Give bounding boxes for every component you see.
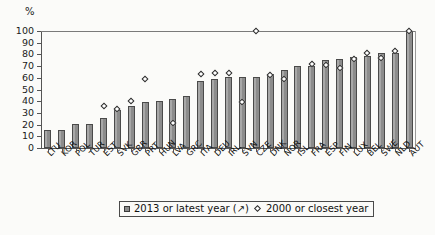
x-tick-mark	[62, 148, 63, 152]
y-tick-label: 20	[8, 120, 34, 130]
y-axis-ticks: 0102030405060708090100	[0, 0, 41, 148]
x-tick-mark	[48, 148, 49, 152]
x-tick-mark	[354, 148, 355, 152]
chart-legend: 2013 or latest year (↗) 2000 or closest …	[119, 201, 374, 217]
diamond-marker	[197, 71, 204, 78]
x-tick-mark	[159, 148, 160, 152]
bar	[322, 60, 329, 148]
y-tick-label: 0	[8, 143, 34, 153]
x-tick-mark	[187, 148, 188, 152]
diamond-marker	[253, 27, 260, 34]
legend-series1-label: 2013 or latest year (↗)	[134, 203, 249, 214]
x-tick-mark	[145, 148, 146, 152]
x-tick-mark	[409, 148, 410, 152]
bar	[308, 66, 315, 148]
bar	[267, 74, 274, 148]
diamond-marker	[211, 70, 218, 77]
x-tick-mark	[173, 148, 174, 152]
x-tick-mark	[201, 148, 202, 152]
x-tick-mark	[242, 148, 243, 152]
x-tick-mark	[117, 148, 118, 152]
y-tick-label: 30	[8, 108, 34, 118]
x-tick-mark	[326, 148, 327, 152]
diamond-marker	[142, 75, 149, 82]
legend-bar-swatch-icon	[124, 206, 130, 212]
x-tick-mark	[381, 148, 382, 152]
bar	[253, 77, 260, 148]
y-tick-label: 100	[8, 26, 34, 36]
y-tick-label: 50	[8, 85, 34, 95]
bar	[392, 53, 399, 148]
bar	[378, 53, 385, 148]
plot-area	[41, 31, 416, 148]
x-tick-mark	[298, 148, 299, 152]
y-tick-label: 80	[8, 50, 34, 60]
diamond-marker	[225, 69, 232, 76]
bar	[211, 79, 218, 148]
bar	[406, 31, 413, 148]
y-tick-label: 90	[8, 38, 34, 48]
bar	[156, 101, 163, 148]
x-tick-mark	[312, 148, 313, 152]
x-tick-mark	[104, 148, 105, 152]
y-tick-label: 10	[8, 132, 34, 142]
bar	[197, 81, 204, 148]
bar	[364, 56, 371, 148]
y-tick-label: 70	[8, 61, 34, 71]
y-tick-label: 60	[8, 73, 34, 83]
bar	[183, 96, 190, 148]
x-tick-mark	[229, 148, 230, 152]
x-tick-mark	[76, 148, 77, 152]
x-tick-mark	[256, 148, 257, 152]
x-tick-mark	[367, 148, 368, 152]
x-tick-mark	[340, 148, 341, 152]
x-tick-mark	[90, 148, 91, 152]
x-tick-mark	[284, 148, 285, 152]
diamond-marker	[100, 103, 107, 110]
bar	[294, 66, 301, 148]
x-tick-mark	[215, 148, 216, 152]
x-tick-mark	[131, 148, 132, 152]
chart-container: % 0102030405060708090100 LTUKORPOLTUREST…	[0, 0, 435, 235]
bar	[350, 57, 357, 148]
x-tick-mark	[395, 148, 396, 152]
bar	[225, 77, 232, 148]
x-tick-mark	[270, 148, 271, 152]
legend-diamond-swatch-icon	[254, 205, 261, 212]
y-tick-mark	[37, 148, 41, 149]
diamond-marker	[128, 97, 135, 104]
legend-series2-label: 2000 or closest year	[266, 203, 368, 214]
bar	[239, 77, 246, 148]
y-tick-label: 40	[8, 96, 34, 106]
